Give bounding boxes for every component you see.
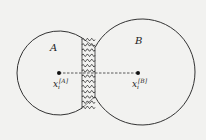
spring-icon xyxy=(82,80,95,83)
spring-icon xyxy=(82,49,95,52)
spring-icon xyxy=(82,59,95,62)
region-b-boundary xyxy=(95,19,195,125)
coupling-diagram: xi[A]xi[B]AB xyxy=(0,0,206,140)
point-label-xB: xi[B] xyxy=(132,77,148,90)
spring-icon xyxy=(82,75,95,78)
spring-icon xyxy=(82,85,95,88)
spring-icon xyxy=(82,54,95,57)
region-b-label: B xyxy=(134,35,142,46)
spring-icon xyxy=(82,38,95,41)
spring-icon xyxy=(82,101,95,104)
spring-icon xyxy=(82,70,95,73)
spring-icon xyxy=(82,64,95,67)
spring-icon xyxy=(82,90,95,93)
point-marker xyxy=(136,71,140,75)
point-label-xA: xi[A] xyxy=(53,77,69,90)
point-marker xyxy=(57,71,61,75)
region-a-label: A xyxy=(49,42,57,53)
